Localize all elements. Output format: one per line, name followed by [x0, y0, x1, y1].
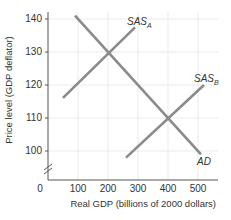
y-tick-labels: 140 130 120 110 100 [25, 13, 42, 156]
y-tick: 120 [25, 79, 42, 90]
chart: 140 130 120 110 100 0 100 200 300 400 50… [0, 0, 231, 220]
x-tick: 0 [37, 183, 43, 194]
y-tick: 100 [25, 145, 42, 156]
ad-label: AD [196, 156, 211, 167]
x-axis-label: Real GDP (billions of 2000 dollars) [70, 198, 216, 209]
x-tick: 500 [190, 183, 207, 194]
sas-a-label: SASA [127, 16, 152, 29]
x-tick-labels: 0 100 200 300 400 500 [37, 183, 207, 194]
y-axis-label: Price level (GDP deflator) [3, 36, 14, 144]
y-tick: 110 [26, 112, 42, 123]
sas-a-curve [63, 27, 135, 98]
curves [63, 16, 204, 158]
x-tick: 300 [130, 183, 147, 194]
y-tick: 130 [25, 46, 42, 57]
x-tick: 200 [100, 183, 117, 194]
x-tick: 100 [70, 183, 87, 194]
x-tick: 400 [160, 183, 177, 194]
y-tick: 140 [25, 13, 42, 24]
